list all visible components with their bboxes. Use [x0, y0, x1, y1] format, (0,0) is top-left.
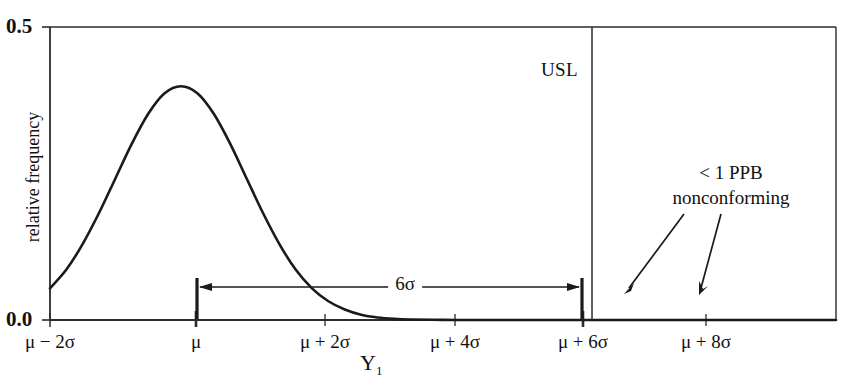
- x-axis-tick-label-mu-plus-2sigma: μ + 2σ: [300, 331, 350, 353]
- x-axis-tick-label-mu-plus-6sigma: μ + 6σ: [558, 331, 608, 353]
- x-axis-title-main: Y: [360, 350, 376, 375]
- y-axis-title: relative frequency: [24, 97, 42, 257]
- x-axis-tick-label-mu-minus-2sigma: μ − 2σ: [25, 331, 75, 353]
- six-sigma-span-label: 6σ: [388, 274, 422, 293]
- chart-figure: 0.5 0.0 relative frequency μ − 2σ μ μ + …: [0, 0, 853, 388]
- usl-label: USL: [541, 60, 578, 79]
- y-axis-tick-label-top: 0.5: [6, 16, 32, 37]
- y-axis-tick-label-bottom: 0.0: [6, 309, 32, 330]
- x-axis-tick-label-mu-plus-8sigma: μ + 8σ: [681, 331, 731, 353]
- nonconforming-annotation-line1: < 1 PPB: [699, 163, 763, 182]
- x-axis-tick-label-mu: μ: [191, 331, 201, 353]
- x-axis-tick-label-mu-plus-4sigma: μ + 4σ: [430, 331, 480, 353]
- nonconforming-annotation-line2: nonconforming: [672, 188, 789, 207]
- x-axis-title: Y1: [360, 352, 382, 377]
- x-axis-title-subscript: 1: [376, 363, 383, 378]
